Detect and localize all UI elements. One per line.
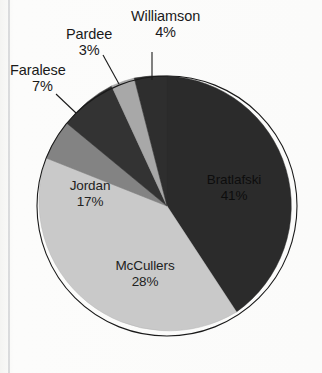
slice-label-jordan-name: Jordan bbox=[70, 178, 111, 193]
slice-label-williamson: Williamson 4% bbox=[131, 8, 200, 40]
slice-label-mccullers-name: McCullers bbox=[115, 258, 174, 273]
slice-label-bratlafski-name: Bratlafski bbox=[207, 172, 262, 187]
leader-line-faralese bbox=[56, 94, 76, 113]
slice-label-bratlafski: Bratlafski 41% bbox=[196, 172, 272, 204]
slice-label-mccullers: McCullers 28% bbox=[90, 258, 200, 290]
slice-label-williamson-value: 4% bbox=[131, 24, 200, 40]
slice-label-pardee-value: 3% bbox=[66, 42, 112, 58]
slice-label-jordan-value: 17% bbox=[53, 194, 127, 210]
pie-chart-graphic bbox=[0, 0, 322, 373]
slice-label-williamson-name: Williamson bbox=[131, 8, 200, 24]
slice-label-faralese-name: Faralese bbox=[10, 62, 66, 78]
slice-label-bratlafski-value: 41% bbox=[196, 188, 272, 204]
slice-label-pardee-name: Pardee bbox=[66, 26, 112, 42]
slice-label-faralese: Faralese 7% bbox=[10, 62, 66, 94]
leader-line-pardee bbox=[103, 55, 119, 84]
slice-label-mccullers-value: 28% bbox=[90, 274, 200, 290]
slice-label-jordan: Jordan 17% bbox=[53, 178, 127, 210]
pie-chart-figure: Faralese 7% Pardee 3% Williamson 4% Brat… bbox=[0, 0, 322, 373]
slice-label-faralese-value: 7% bbox=[10, 78, 66, 94]
slice-label-pardee: Pardee 3% bbox=[66, 26, 112, 58]
